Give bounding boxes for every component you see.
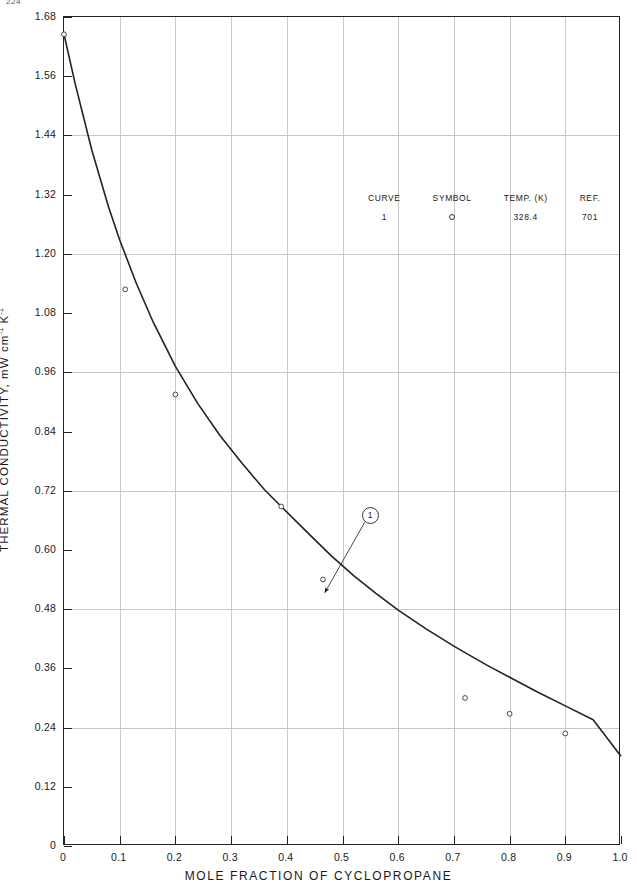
x-tick-label: 0.9: [557, 851, 572, 863]
y-axis-title: THERMAL CONDUCTIVITY, mW cm-1 K-1: [0, 308, 10, 552]
x-tick-label: 0.8: [501, 851, 516, 863]
y-title-exp2: -1: [0, 308, 5, 315]
y-axis-tick-labels: 00.120.240.360.480.600.720.840.961.081.2…: [0, 0, 637, 895]
y-tick-label: 0.36: [0, 661, 56, 673]
y-title-exp1: -1: [0, 328, 5, 335]
y-title-main: THERMAL CONDUCTIVITY, mW cm: [0, 334, 10, 552]
y-tick-label: 1.68: [0, 10, 56, 22]
y-tick-label: 0.24: [0, 721, 56, 733]
y-tick-label: 1.56: [0, 69, 56, 81]
y-title-mid: K: [0, 315, 10, 328]
x-tick-label: 1.0: [612, 851, 627, 863]
x-tick-label: 0.7: [445, 851, 460, 863]
y-tick-label: 1.32: [0, 188, 56, 200]
y-tick-label: 1.44: [0, 128, 56, 140]
x-axis-title: MOLE FRACTION OF CYCLOPROPANE: [0, 869, 637, 883]
chart-figure: 224 CURVE SYMBOL TEMP. (K) REF. 1: [0, 0, 637, 895]
y-tick-label: 0.12: [0, 780, 56, 792]
x-tick-label: 0.6: [390, 851, 405, 863]
x-tick-label: 0.4: [278, 851, 293, 863]
x-tick-label: 0.1: [111, 851, 126, 863]
x-tick-label: 0.3: [222, 851, 237, 863]
x-tick-label: 0.5: [334, 851, 349, 863]
x-tick-label: 0.2: [167, 851, 182, 863]
y-tick-label: 0.48: [0, 602, 56, 614]
y-tick-label: 0: [0, 839, 56, 851]
x-tick-label: 0: [60, 851, 66, 863]
y-tick-label: 1.20: [0, 247, 56, 259]
